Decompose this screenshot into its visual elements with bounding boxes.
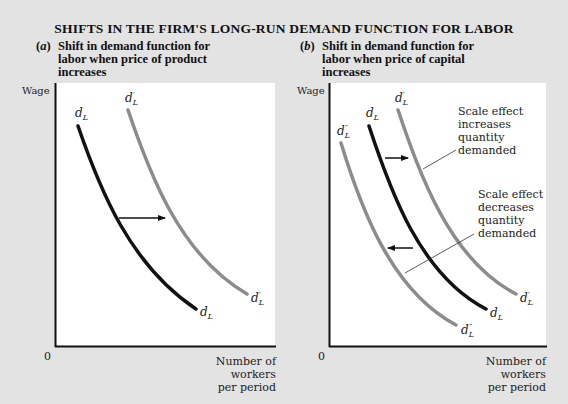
panel-a-x-axis-label: Number of workers per period	[200, 355, 276, 394]
panel-b-label-dL-bottom: dL	[490, 306, 503, 322]
panel-a-label-dL-prime-top: dL′	[125, 90, 135, 107]
panel-b-note-increase: Scale effect increases quantity demanded	[458, 105, 523, 157]
panel-b-curve-dL-double-prime	[341, 143, 456, 325]
panel-b-label-dL-top: dL	[366, 106, 379, 122]
note-line: quantity	[478, 214, 543, 227]
panel-b-label-dL-double-prime-top: dL″	[337, 123, 348, 140]
panel-b-x-axis-label: Number of workers per period	[470, 355, 546, 394]
note-line: demanded	[478, 227, 543, 240]
panel-a-label-dL-prime-bottom: dL′	[251, 290, 261, 307]
note-line: Scale effect	[458, 105, 523, 118]
panel-a-label-dL-bottom: dL	[200, 305, 213, 321]
panel-a-label-dL-top: dL	[75, 106, 88, 122]
x-label-line2: workers	[470, 368, 546, 381]
note-line: demanded	[458, 144, 523, 157]
panel-a-y-axis-label: Wage	[22, 85, 50, 96]
note-line: Scale effect	[478, 188, 543, 201]
x-label-line3: per period	[200, 381, 276, 394]
note-line: increases	[458, 118, 523, 131]
panel-a-curve-dL-prime	[128, 110, 247, 294]
note-line: quantity	[458, 131, 523, 144]
panel-b-origin-label: 0	[318, 350, 325, 363]
x-label-line1: Number of	[470, 355, 546, 368]
panel-b-label-dL-double-prime-bottom: dL″	[461, 322, 472, 339]
note-line: decreases	[478, 201, 543, 214]
panel-b-note-decrease: Scale effect decreases quantity demanded	[478, 188, 543, 240]
x-label-line2: workers	[200, 368, 276, 381]
panel-a-axes	[55, 83, 276, 347]
x-label-line3: per period	[470, 381, 546, 394]
panel-b-label-dL-prime-bottom: dL′	[520, 290, 530, 307]
panel-a-origin-label: 0	[44, 350, 51, 363]
x-label-line1: Number of	[200, 355, 276, 368]
panel-b-label-dL-prime-top: dL′	[395, 90, 405, 107]
panel-b-y-axis-label: Wage	[297, 85, 325, 96]
panel-b-leader-increase	[423, 150, 456, 169]
